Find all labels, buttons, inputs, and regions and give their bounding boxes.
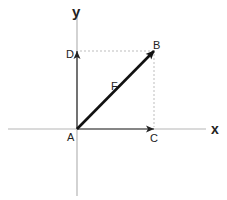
x-axis-label: x xyxy=(211,121,219,137)
vector-f-label: F xyxy=(111,80,118,92)
point-d-label: D xyxy=(66,48,74,60)
y-axis-label: y xyxy=(72,3,81,20)
vector-diagram: y x A B C D F xyxy=(0,0,227,200)
point-b-label: B xyxy=(153,39,160,51)
point-c-label: C xyxy=(150,132,158,144)
point-a-label: A xyxy=(67,131,75,143)
